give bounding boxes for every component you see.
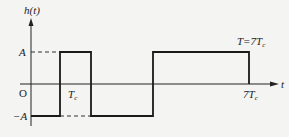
x-axis-label: t <box>281 78 285 90</box>
end-time-label: 7Tc <box>243 88 259 102</box>
level-low-label: −A <box>13 110 27 122</box>
origin-label: O <box>19 87 27 99</box>
waveform-diagram: h(t) t O A −A Tc 7Tc T=7Tc <box>0 0 289 137</box>
y-axis-label: h(t) <box>24 4 40 17</box>
pulse-width-label: Tc <box>68 88 78 102</box>
x-axis-arrow-icon <box>270 82 279 87</box>
level-high-label: A <box>18 46 26 58</box>
period-label: T=7Tc <box>237 35 266 49</box>
y-axis-arrow-icon <box>29 18 34 26</box>
